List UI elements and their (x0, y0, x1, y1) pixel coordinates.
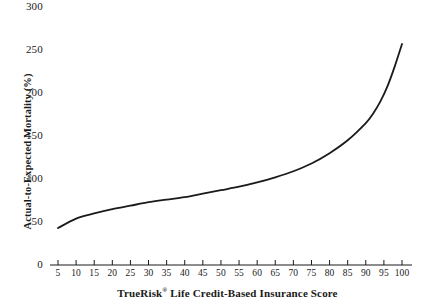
y-axis-tick-label: 300 (15, 1, 43, 12)
y-axis-title: Actual-to-Expected Mortality (%) (22, 57, 33, 247)
plot-area (0, 0, 423, 307)
x-axis-title-brand: TrueRisk (117, 287, 162, 299)
data-series-line (58, 44, 402, 228)
x-axis-tick-marks (58, 260, 402, 265)
x-axis-title-rest: Life Credit-Based Insurance Score (167, 287, 337, 299)
chart-figure: 050100150200250300 510152025303540455055… (0, 0, 423, 307)
x-axis-tick-label: 100 (391, 268, 413, 278)
y-axis-tick-label: 0 (15, 259, 43, 270)
x-axis (50, 260, 412, 265)
x-axis-title: TrueRisk® Life Credit-Based Insurance Sc… (40, 287, 415, 299)
y-axis-tick-label: 250 (15, 44, 43, 55)
